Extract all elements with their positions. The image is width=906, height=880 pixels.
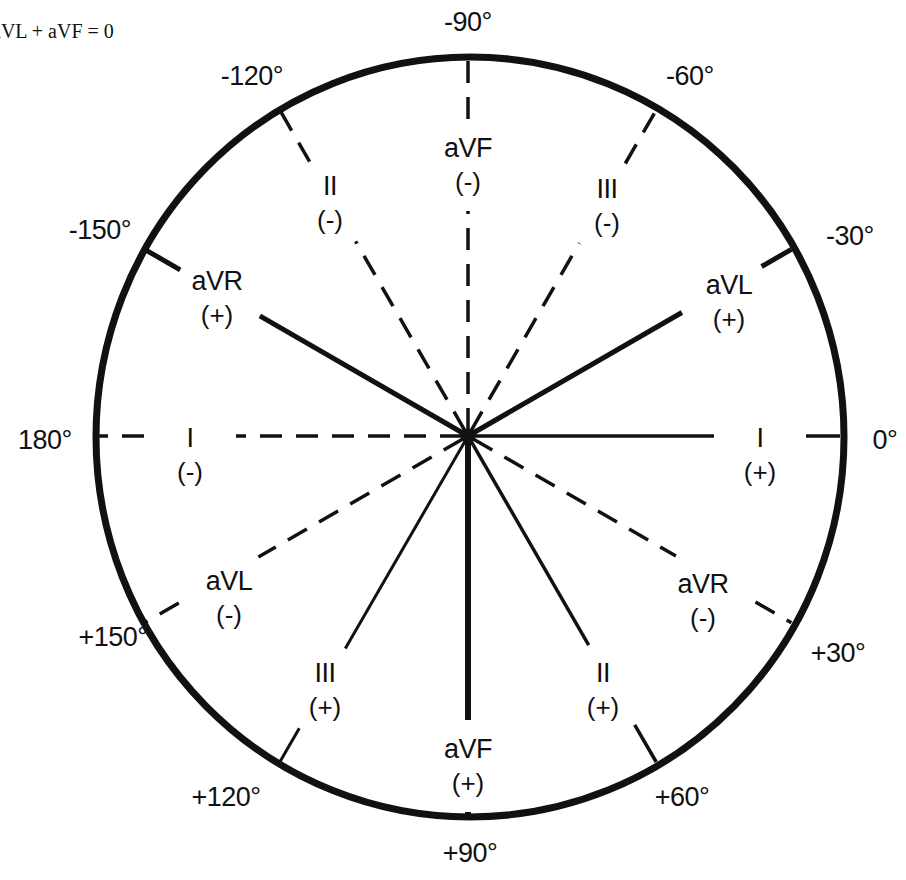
degree-label-plus-150: +150° <box>78 624 147 651</box>
lead-polarity: (-) <box>594 210 620 236</box>
axis-III-positive <box>280 728 300 762</box>
lead-label-aVR-positive: aVR (+) <box>191 268 242 328</box>
axis-aVR-positive <box>260 316 463 433</box>
lead-name: aVF <box>444 736 492 763</box>
lead-name: II <box>587 660 620 687</box>
center-point <box>461 429 475 443</box>
lead-label-II-positive: II (+) <box>587 660 620 720</box>
lead-polarity: (+) <box>706 306 753 332</box>
lead-name: aVR <box>677 571 728 598</box>
lead-name: aVR <box>191 268 242 295</box>
degree-label-180: 180° <box>18 427 72 454</box>
degree-label-plus-90: +90° <box>443 840 498 867</box>
axis-aVR-negative <box>756 602 792 623</box>
axis-II-positive <box>471 441 589 645</box>
degree-label-plus-120: +120° <box>191 784 260 811</box>
lead-name: I <box>177 425 203 452</box>
lead-polarity: (+) <box>444 770 492 796</box>
lead-polarity: (+) <box>744 459 777 485</box>
lead-polarity: (-) <box>317 207 343 233</box>
lead-polarity: (+) <box>309 694 342 720</box>
lead-label-aVR-negative: aVR (-) <box>677 571 728 631</box>
lead-label-aVF-positive: aVF (+) <box>444 736 492 796</box>
degree-label-plus-30: +30° <box>811 640 866 667</box>
axis-aVR-positive <box>145 249 181 269</box>
degree-label-minus-120: -120° <box>221 63 283 90</box>
lead-polarity: (-) <box>206 602 253 628</box>
lead-label-aVF-negative: aVF (-) <box>444 135 492 195</box>
axis-II-negative <box>280 110 310 162</box>
lead-label-I-negative: I (-) <box>177 425 203 485</box>
axis-III-positive <box>345 441 465 648</box>
lead-name: III <box>594 176 620 203</box>
axis-aVL-positive <box>762 249 792 266</box>
lead-polarity: (-) <box>177 459 203 485</box>
axis-III-negative <box>625 110 656 164</box>
degree-label-minus-60: -60° <box>666 63 714 90</box>
axis-aVL-positive <box>473 313 682 434</box>
lead-label-III-positive: III (+) <box>309 660 342 720</box>
lead-name: III <box>309 660 342 687</box>
lead-polarity: (+) <box>587 694 620 720</box>
degree-label-minus-30: -30° <box>826 223 874 250</box>
lead-polarity: (-) <box>677 605 728 631</box>
lead-label-I-positive: I (+) <box>744 425 777 485</box>
degree-label-minus-150: -150° <box>69 217 131 244</box>
axis-aVL-negative <box>145 603 179 623</box>
lead-label-aVL-positive: aVL (+) <box>706 272 753 332</box>
lead-label-aVL-negative: aVL (-) <box>206 568 253 628</box>
lead-name: II <box>317 173 343 200</box>
lead-name: aVL <box>706 272 753 299</box>
degree-label-plus-60: +60° <box>655 784 710 811</box>
degree-label-0: 0° <box>873 427 898 454</box>
lead-name: aVF <box>444 135 492 162</box>
lead-label-II-negative: II (-) <box>317 173 343 233</box>
lead-label-III-negative: III (-) <box>594 176 620 236</box>
lead-polarity: (+) <box>191 302 242 328</box>
degree-label-minus-90: -90° <box>444 9 492 36</box>
lead-polarity: (-) <box>444 169 492 195</box>
lead-name: aVL <box>206 568 253 595</box>
lead-name: I <box>744 425 777 452</box>
axis-II-positive <box>635 725 657 762</box>
